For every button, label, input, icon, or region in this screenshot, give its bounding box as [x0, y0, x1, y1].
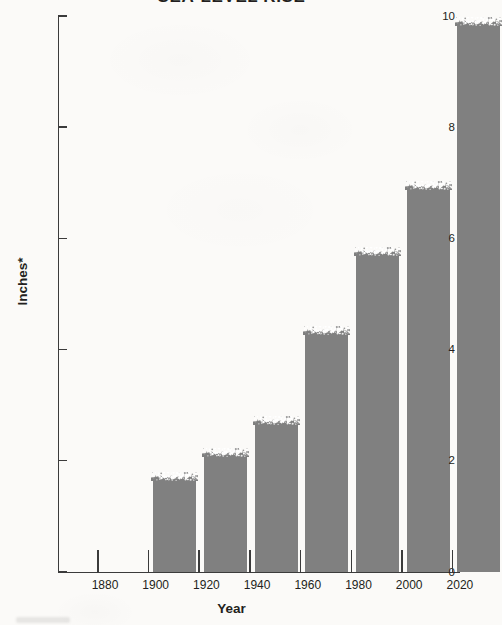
bar-1940	[255, 423, 298, 572]
bar-1980	[356, 254, 399, 572]
y-tick-8	[58, 126, 67, 127]
bar-2020	[457, 24, 500, 571]
y-tick-6	[58, 238, 67, 239]
y-axis-title: Inches*	[15, 222, 30, 342]
x-tick-2020	[452, 550, 454, 572]
x-axis-line	[58, 572, 460, 573]
y-tick-label-2: 2	[411, 454, 463, 466]
bar-foam-top-1940	[253, 416, 300, 425]
x-tick-1920	[198, 550, 200, 572]
x-tick-1980	[351, 550, 353, 572]
y-tick-label-0: 0	[411, 566, 463, 578]
bar-foam-top-1960	[303, 326, 350, 335]
x-tick-2000	[401, 550, 403, 572]
x-tick-1900	[148, 550, 150, 572]
bar-1960	[305, 333, 348, 572]
x-tick-1960	[300, 550, 302, 572]
x-axis-title: Year	[0, 601, 463, 616]
y-tick-4	[58, 349, 67, 350]
bar-foam-top-1900	[151, 472, 198, 481]
bar-foam-top-1980	[354, 247, 401, 256]
bar-foam-top-2000	[405, 181, 452, 190]
x-tick-1940	[249, 550, 251, 572]
y-tick-0	[58, 571, 67, 572]
y-tick-label-4: 4	[411, 343, 463, 355]
y-tick-10	[58, 15, 67, 16]
bar-foam-top-1920	[202, 448, 249, 457]
scan-artifact	[16, 617, 70, 623]
bar-1900	[153, 479, 196, 572]
x-tick-1880	[97, 550, 99, 572]
bar-2000	[407, 188, 450, 572]
y-tick-label-6: 6	[411, 232, 463, 244]
x-tick-label-2020: 2020	[430, 578, 490, 592]
y-tick-label-10: 10	[411, 10, 463, 22]
bar-1920	[204, 455, 247, 572]
y-tick-2	[58, 460, 67, 461]
y-axis-line	[58, 16, 59, 573]
y-tick-label-8: 8	[411, 121, 463, 133]
